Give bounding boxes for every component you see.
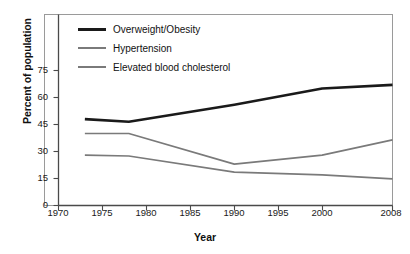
x-tick-label-1980: 1980 [126,208,166,218]
legend-swatch-hypertension [78,47,106,49]
legend-item-elevated-blood-cholesterol: Elevated blood cholesterol [78,60,230,74]
y-tick-label-30: 30 [22,146,48,156]
legend-swatch-overweight-obesity [78,28,106,31]
x-tick-label-1990: 1990 [214,208,254,218]
x-tick-label-1975: 1975 [82,208,122,218]
legend-swatch-elevated-blood-cholesterol [78,66,106,68]
y-axis-title: Percent of population [18,0,36,146]
legend-label-elevated-blood-cholesterol: Elevated blood cholesterol [113,62,230,73]
x-tick-label-2000: 2000 [302,208,342,218]
y-tick-label-15: 15 [22,173,48,183]
legend-label-overweight-obesity: Overweight/Obesity [113,24,200,35]
x-tick-label-1985: 1985 [170,208,210,218]
x-axis-title: Year [0,231,410,243]
legend-label-hypertension: Hypertension [113,43,172,54]
x-tick-label-1970: 1970 [38,208,78,218]
legend-item-hypertension: Hypertension [78,41,172,55]
x-tick-label-2008: 2008 [371,208,410,218]
legend-item-overweight-obesity: Overweight/Obesity [78,22,200,36]
x-tick-label-1995: 1995 [258,208,298,218]
chart-figure: 75 60 45 30 15 0 1970 1975 1980 1985 199… [0,0,410,254]
